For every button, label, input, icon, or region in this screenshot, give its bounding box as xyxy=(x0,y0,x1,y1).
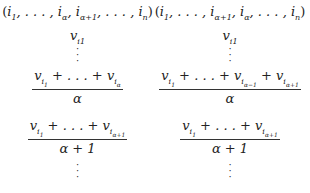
left-fraction-alpha-denominator: α xyxy=(73,90,82,106)
left-fraction-alpha-plus-one: vi1 + . . . + viα+1 α + 1 xyxy=(0,118,155,156)
left-fraction-alpha-plus-one-denominator: α + 1 xyxy=(59,140,95,156)
left-fraction-alpha: vi1 + . . . + viα α xyxy=(0,68,155,106)
left-index-tuple: (i1, . . . , iα, iα+1, . . . , in) xyxy=(0,4,155,22)
right-fraction-alpha: vi1 + . . . + viα−1 + viα+1 α xyxy=(150,68,310,106)
right-vdots-2: ··· xyxy=(150,162,310,180)
right-fraction-alpha-plus-one-numerator: vi1 + . . . + viα+1 xyxy=(180,118,280,140)
left-vdots-1: ··· xyxy=(0,46,155,64)
right-fraction-alpha-numerator: vi1 + . . . + viα−1 + viα+1 xyxy=(159,68,301,90)
right-fraction-alpha-plus-one: vi1 + . . . + viα+1 α + 1 xyxy=(150,118,310,156)
left-fraction-alpha-plus-one-numerator: vi1 + . . . + viα+1 xyxy=(28,118,128,140)
left-vdots-2: ··· xyxy=(0,162,155,180)
right-index-tuple: (i1, . . . , iα+1, iα, . . . , in) xyxy=(150,4,310,22)
right-fraction-alpha-denominator: α xyxy=(226,90,235,106)
left-fraction-alpha-numerator: vi1 + . . . + viα xyxy=(32,68,123,90)
right-fraction-alpha-plus-one-denominator: α + 1 xyxy=(212,140,248,156)
right-vdots-1: ··· xyxy=(150,46,310,64)
